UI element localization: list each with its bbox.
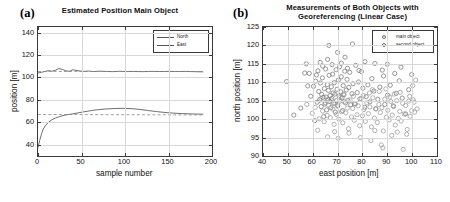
panel-b-legend: main object second object xyxy=(372,30,434,53)
scatter-point xyxy=(395,130,399,134)
x-tick xyxy=(412,27,413,30)
y-tick xyxy=(263,119,266,120)
x-tick-label: 70 xyxy=(332,157,340,166)
gridline-horizontal xyxy=(263,119,437,120)
x-tick xyxy=(169,27,170,30)
scatter-point xyxy=(343,55,347,59)
x-tick xyxy=(38,153,39,156)
scatter-point xyxy=(408,94,412,98)
y-tick-label: 60 xyxy=(10,117,34,126)
scatter-point xyxy=(381,129,385,133)
y-tick xyxy=(434,101,437,102)
scatter-point xyxy=(322,86,326,90)
y-tick-label: 95 xyxy=(235,132,259,141)
scatter-point xyxy=(405,127,409,131)
y-tick xyxy=(263,138,266,139)
scatter-point xyxy=(341,84,345,88)
scatter-point xyxy=(341,121,345,125)
gridline-horizontal xyxy=(263,101,437,102)
x-tick xyxy=(212,153,213,156)
scatter-point xyxy=(348,70,352,74)
gridline-horizontal xyxy=(263,64,437,65)
legend-entry-north: North xyxy=(157,34,205,41)
scatter-point xyxy=(316,69,320,73)
x-tick-label: 100 xyxy=(118,157,130,166)
x-tick xyxy=(412,153,413,156)
gridline-vertical xyxy=(169,27,170,156)
scatter-point xyxy=(404,103,408,107)
scatter-point xyxy=(299,106,303,110)
scatter-point xyxy=(390,113,394,117)
y-tick xyxy=(263,45,266,46)
y-tick-label: 120 xyxy=(10,50,34,59)
scatter-point xyxy=(368,105,372,109)
legend-entry-east: East xyxy=(157,42,205,49)
scatter-point xyxy=(346,127,350,131)
scatter-point xyxy=(313,105,317,109)
gridline-vertical xyxy=(387,27,388,156)
y-tick xyxy=(209,55,212,56)
scatter-point xyxy=(401,101,405,105)
legend-line-east-icon xyxy=(157,45,174,46)
legend-label-east: East xyxy=(177,43,186,48)
scatter-point xyxy=(373,128,377,132)
scatter-point xyxy=(305,102,309,106)
y-tick xyxy=(434,138,437,139)
scatter-point xyxy=(347,131,351,135)
x-tick-label: 200 xyxy=(205,157,217,166)
y-tick-label: 115 xyxy=(235,58,259,67)
scatter-point xyxy=(369,138,373,142)
legend-entry-main-object: main object xyxy=(376,34,430,41)
x-tick xyxy=(212,27,213,30)
scatter-point xyxy=(370,77,374,81)
scatter-point xyxy=(377,89,381,93)
x-tick-label: 80 xyxy=(357,157,365,166)
scatter-point xyxy=(378,85,382,89)
scatter-point xyxy=(401,147,405,151)
scatter-point xyxy=(326,57,330,61)
x-tick xyxy=(437,27,438,30)
scatter-point xyxy=(364,95,368,99)
scatter-point xyxy=(398,90,402,94)
x-tick xyxy=(125,27,126,30)
scatter-point xyxy=(375,120,379,124)
scatter-point xyxy=(355,91,359,95)
y-tick xyxy=(263,101,266,102)
scatter-point xyxy=(400,96,404,100)
panel-b-y-axis-title: north position [m] xyxy=(233,59,242,122)
y-tick xyxy=(263,64,266,65)
y-tick xyxy=(434,119,437,120)
y-tick-label: 90 xyxy=(235,151,259,160)
panel-a-tag: (a) xyxy=(20,6,35,21)
scatter-point xyxy=(347,85,351,89)
x-tick xyxy=(338,27,339,30)
legend-line-north-icon xyxy=(157,37,174,38)
panel-a-plot-area: North East xyxy=(37,26,213,157)
scatter-point xyxy=(378,110,382,114)
scatter-point xyxy=(366,112,370,116)
scatter-point xyxy=(303,71,307,75)
y-tick xyxy=(38,145,41,146)
panel-b-plot-area: main object second object xyxy=(262,26,438,157)
scatter-point xyxy=(339,110,343,114)
gridline-horizontal xyxy=(263,45,437,46)
y-tick xyxy=(209,122,212,123)
panel-a-x-axis-title: sample number xyxy=(96,169,152,178)
x-tick-label: 100 xyxy=(405,157,417,166)
x-tick xyxy=(313,153,314,156)
x-tick-label: 50 xyxy=(283,157,291,166)
series-line xyxy=(38,108,203,147)
scatter-point xyxy=(314,73,318,77)
scatter-point xyxy=(307,71,311,75)
panel-a: (a) Estimated Position Main Object North… xyxy=(0,0,225,202)
scatter-point xyxy=(381,74,385,78)
scatter-point xyxy=(351,106,355,110)
y-tick-label: 100 xyxy=(10,72,34,81)
x-tick xyxy=(288,153,289,156)
scatter-point xyxy=(369,125,373,129)
x-tick xyxy=(288,27,289,30)
scatter-point xyxy=(393,71,397,75)
x-tick-label: 150 xyxy=(161,157,173,166)
gridline-vertical xyxy=(82,27,83,156)
series-line xyxy=(38,69,203,73)
